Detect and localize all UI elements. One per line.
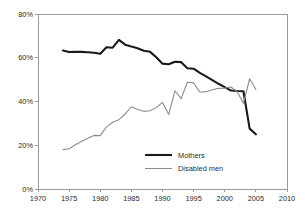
x-tick-label: 2000 bbox=[217, 194, 233, 203]
y-tick-label: 20% bbox=[18, 141, 33, 150]
employment-rate-line-chart: 0%20%40%60%80% 1970197519801985199019952… bbox=[0, 0, 305, 220]
x-tick-label: 1975 bbox=[61, 194, 77, 203]
y-tick-label: 0% bbox=[22, 185, 33, 194]
x-tick-label: 2005 bbox=[248, 194, 264, 203]
x-tick-label: 1990 bbox=[154, 194, 170, 203]
y-tick-label: 60% bbox=[18, 53, 33, 62]
x-tick-label: 1995 bbox=[185, 194, 201, 203]
y-tick-label: 80% bbox=[18, 10, 33, 19]
legend-label-disabled-men: Disabled men bbox=[178, 164, 223, 173]
x-tick-label: 1970 bbox=[30, 194, 46, 203]
x-tick-label: 1980 bbox=[92, 194, 108, 203]
chart-canvas: 0%20%40%60%80% 1970197519801985199019952… bbox=[0, 0, 305, 220]
x-tick-label: 1985 bbox=[123, 194, 139, 203]
plot-background bbox=[38, 14, 287, 189]
x-tick-label: 2010 bbox=[279, 194, 295, 203]
x-axis-tick-labels: 197019751980198519901995200020052010 bbox=[30, 194, 295, 203]
y-axis-tick-labels: 0%20%40%60%80% bbox=[18, 10, 33, 194]
legend-label-mothers: Mothers bbox=[178, 151, 205, 160]
y-tick-label: 40% bbox=[18, 97, 33, 106]
